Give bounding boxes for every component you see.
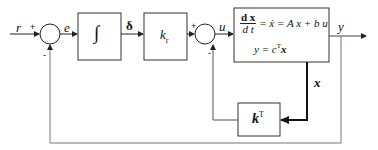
label-delta: δ [126, 19, 133, 32]
state-x-path [281, 62, 307, 120]
label-x: x [314, 76, 321, 89]
summing-junction-1 [40, 24, 60, 44]
gain-kT-label: kT [252, 111, 264, 126]
label-u: u [219, 20, 226, 33]
sum2-plus-sign: + [191, 22, 196, 31]
sum1-plus-sign: + [30, 23, 35, 32]
integral-symbol: ∫ [94, 23, 99, 42]
output-eq-lhs: y = c [254, 43, 277, 55]
label-r: r [16, 21, 21, 34]
deriv-denominator: d t [240, 24, 256, 35]
gain-kr-label: kr [160, 28, 168, 45]
gain-kT-base: k [252, 111, 259, 126]
summing-junction-2 [195, 24, 215, 44]
label-e: e [64, 21, 70, 34]
gain-kT-sup: T [259, 110, 264, 119]
plant-equation-1: d x d t = ẋ = A x + b u [240, 12, 328, 35]
gain-kr-sub: r [166, 36, 169, 45]
integrator-block [78, 13, 121, 60]
sum1-minus-sign: - [43, 51, 46, 60]
label-y: y [338, 20, 344, 33]
output-eq-rhs: x [281, 43, 287, 55]
plant-equation-2: y = cTx [254, 43, 286, 55]
state-equation-rhs: = ẋ = A x + b u [259, 17, 328, 29]
sum2-minus-sign: - [208, 49, 211, 58]
